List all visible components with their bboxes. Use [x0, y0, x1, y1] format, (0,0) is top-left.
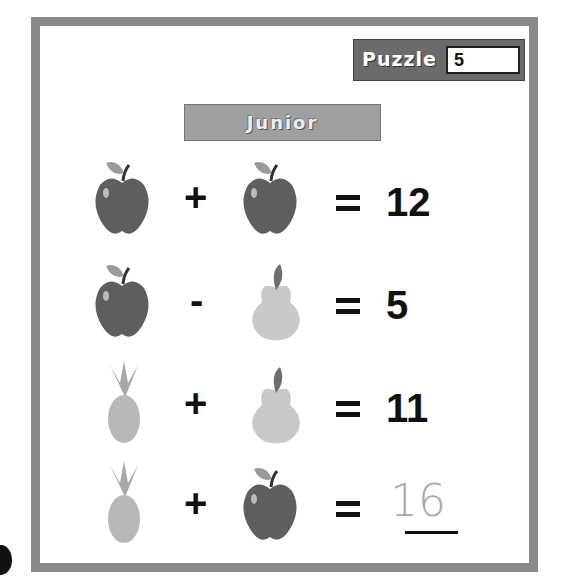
pear-icon	[248, 361, 304, 445]
answer-blank-line	[405, 531, 458, 534]
apple-icon	[92, 159, 152, 239]
plus-operator: +	[184, 175, 207, 220]
handwritten-answer[interactable]: 16	[390, 475, 446, 526]
pineapple-icon	[104, 459, 144, 545]
partial-circle-marker	[0, 545, 12, 575]
puzzle-card: Puzzle 5 Junior + 12 -	[31, 17, 538, 572]
level-label: Junior	[247, 112, 319, 133]
equation-row-2: - 5	[40, 256, 529, 346]
apple-icon	[92, 262, 152, 342]
puzzle-number-field[interactable]: 5	[446, 46, 520, 74]
equation-row-4: + 16	[40, 459, 529, 549]
equals-sign	[336, 401, 360, 417]
pear-icon	[248, 258, 304, 342]
level-banner: Junior	[184, 104, 381, 141]
pineapple-icon	[104, 359, 144, 445]
plus-operator: +	[184, 481, 207, 526]
plus-operator: +	[184, 381, 207, 426]
equation-row-3: + 11	[40, 359, 529, 449]
equation-result: 12	[386, 180, 431, 225]
equals-sign	[336, 298, 360, 314]
equals-sign	[336, 501, 360, 517]
equation-result: 5	[386, 283, 408, 328]
apple-icon	[240, 465, 300, 545]
puzzle-number-box: Puzzle 5	[353, 39, 525, 81]
equals-sign	[336, 195, 360, 211]
equation-result: 11	[386, 386, 428, 431]
equation-row-1: + 12	[40, 153, 529, 243]
puzzle-label: Puzzle	[362, 48, 437, 70]
minus-operator: -	[190, 278, 203, 323]
apple-icon	[240, 159, 300, 239]
